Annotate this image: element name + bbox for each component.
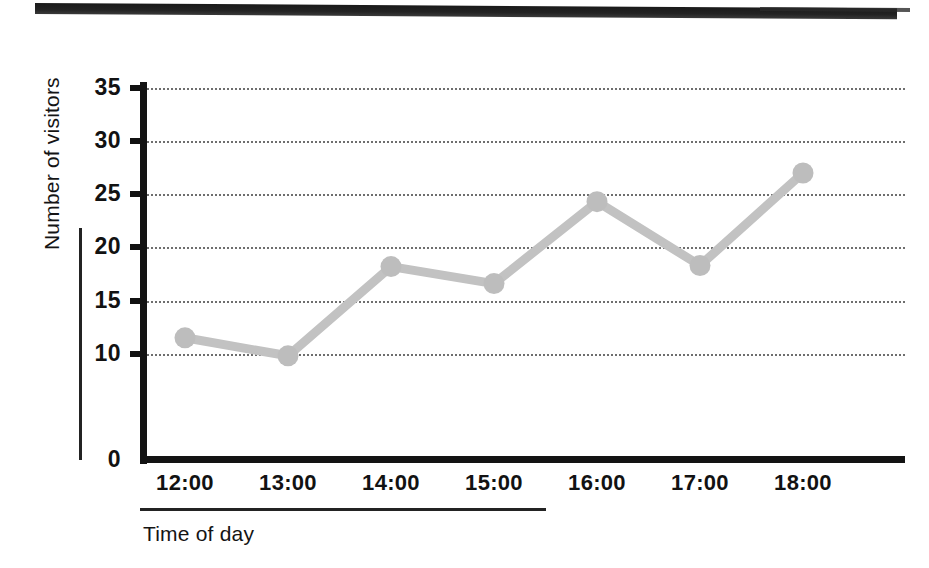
y-tick-label: 20 xyxy=(94,235,121,258)
y-tick-label: 10 xyxy=(94,342,121,365)
x-axis-title-rule xyxy=(140,508,546,511)
x-tick-label: 17:00 xyxy=(671,470,729,496)
plot-area xyxy=(143,88,905,460)
gridline xyxy=(147,301,905,303)
x-tick-label: 15:00 xyxy=(465,470,523,496)
y-tick-label: 0 xyxy=(108,448,121,471)
y-axis-title: Number of visitors xyxy=(40,220,64,250)
y-axis-title-rule xyxy=(79,228,82,460)
gridline xyxy=(147,354,905,356)
gridline xyxy=(147,194,905,196)
y-tick-label: 35 xyxy=(94,76,121,99)
x-tick-label: 14:00 xyxy=(362,470,420,496)
gridline xyxy=(147,247,905,249)
line-chart: Number of visitors Time of day 010152025… xyxy=(0,0,929,568)
y-axis-line xyxy=(140,82,147,464)
x-tick-label: 18:00 xyxy=(774,470,832,496)
x-axis-title: Time of day xyxy=(143,522,254,546)
x-tick-label: 13:00 xyxy=(259,470,317,496)
y-tick-label: 25 xyxy=(94,182,121,205)
x-axis-line xyxy=(140,456,905,463)
gridline xyxy=(147,141,905,143)
y-tick-label: 15 xyxy=(94,289,121,312)
y-tick-label: 30 xyxy=(94,129,121,152)
gridline xyxy=(147,88,905,90)
x-tick-label: 12:00 xyxy=(156,470,214,496)
x-tick-label: 16:00 xyxy=(568,470,626,496)
